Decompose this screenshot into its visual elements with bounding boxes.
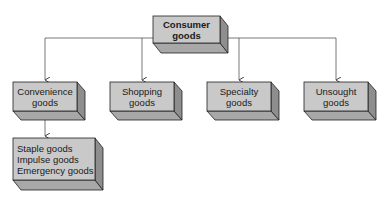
label-convenience-goods: Convenience goods <box>13 82 77 111</box>
subtype-staple: Staple goods <box>17 143 72 154</box>
label-specialty-goods: Specialty goods <box>207 82 271 111</box>
label-line: Consumer <box>153 19 220 30</box>
label-line: goods <box>207 97 271 108</box>
label-convenience-subtypes: Staple goods Impulse goods Emergency goo… <box>13 138 95 180</box>
label-line: goods <box>13 97 77 108</box>
subtype-impulse: Impulse goods <box>17 154 79 165</box>
label-line: Convenience <box>13 86 77 97</box>
label-line: goods <box>110 97 174 108</box>
label-shopping-goods: Shopping goods <box>110 82 174 111</box>
label-unsought-goods: Unsought goods <box>304 82 368 111</box>
subtype-emergency: Emergency goods <box>17 165 94 176</box>
label-line: Unsought <box>304 86 368 97</box>
label-line: goods <box>153 30 220 41</box>
label-line: Shopping <box>110 86 174 97</box>
label-line: goods <box>304 97 368 108</box>
label-line: Specialty <box>207 86 271 97</box>
label-consumer-goods: Consumer goods <box>153 16 220 43</box>
